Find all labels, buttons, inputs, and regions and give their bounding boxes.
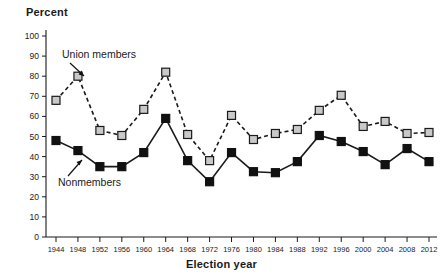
x-tick-label: 1976 [223,245,240,254]
y-tick-label: 50 [30,132,40,142]
x-axis-title: Election year [0,258,443,270]
data-point-marker [359,148,367,156]
x-tick-label: 1964 [157,245,174,254]
x-tick-label: 1944 [48,245,65,254]
data-point-marker [359,122,367,130]
x-tick-label: 1960 [135,245,152,254]
data-point-marker [381,161,389,169]
annotation-label-nonmembers: Nonmembers [58,176,121,188]
data-point-marker [425,158,433,166]
x-tick-label: 1984 [267,245,284,254]
data-point-marker [96,126,104,134]
data-point-marker [118,131,126,139]
data-point-marker [96,163,104,171]
data-point-marker [140,149,148,157]
data-point-marker [249,168,257,176]
data-point-marker [206,178,214,186]
x-tick-label: 2000 [355,245,372,254]
data-point-marker [315,131,323,139]
x-tick-label: 1952 [92,245,109,254]
series-line-union-members [56,72,429,160]
data-point-marker [315,106,323,114]
x-tick-label: 1992 [311,245,328,254]
data-point-marker [74,147,82,155]
data-point-marker [337,91,345,99]
data-point-marker [249,136,257,144]
chart-plot-area: 0102030405060708090100 19441948195219561… [0,0,443,280]
data-point-marker [228,149,236,157]
data-point-marker [271,129,279,137]
data-point-marker [337,138,345,146]
data-point-marker [403,129,411,137]
y-tick-label: 20 [30,192,40,202]
data-point-marker [403,145,411,153]
y-tick-label: 60 [30,111,40,121]
data-point-marker [140,105,148,113]
data-point-marker [52,137,60,145]
data-point-marker [293,158,301,166]
data-point-marker [162,114,170,122]
data-point-marker [381,117,389,125]
data-point-marker [52,96,60,104]
x-axis-ticks: 1944194819521956196019641968197219761980… [48,237,438,254]
y-tick-label: 0 [34,232,39,242]
x-tick-label: 1968 [179,245,196,254]
x-tick-label: 2012 [421,245,438,254]
y-tick-label: 40 [30,152,40,162]
data-point-marker [425,128,433,136]
data-point-marker [118,163,126,171]
data-point-marker [184,130,192,138]
y-axis-ticks: 0102030405060708090100 [25,31,46,242]
annotation-label-union-members: Union members [62,48,136,60]
y-tick-label: 80 [30,71,40,81]
x-tick-label: 1996 [333,245,350,254]
x-tick-label: 1972 [201,245,218,254]
data-series-layer [52,68,433,186]
y-tick-label: 100 [25,31,39,41]
chart-container: Percent 0102030405060708090100 194419481… [0,0,443,280]
data-point-marker [184,157,192,165]
x-tick-label: 2004 [377,245,394,254]
x-tick-label: 1980 [245,245,262,254]
x-tick-label: 1948 [70,245,87,254]
data-point-marker [293,125,301,133]
x-tick-label: 2008 [399,245,416,254]
y-tick-label: 90 [30,51,40,61]
x-tick-label: 1988 [289,245,306,254]
y-tick-label: 30 [30,172,40,182]
y-tick-label: 70 [30,91,40,101]
data-point-marker [228,111,236,119]
y-tick-label: 10 [30,212,40,222]
x-tick-label: 1956 [113,245,130,254]
data-point-marker [206,157,214,165]
data-point-marker [271,169,279,177]
data-point-marker [162,68,170,76]
